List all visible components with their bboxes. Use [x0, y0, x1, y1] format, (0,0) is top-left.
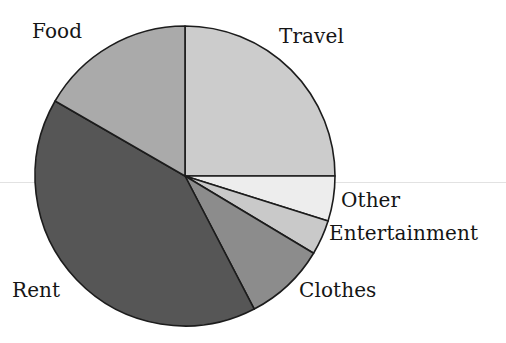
pie-label-travel: Travel [279, 26, 344, 46]
pie-slice-travel [185, 26, 335, 176]
pie-slices-group [35, 26, 335, 326]
pie-chart [0, 0, 506, 343]
pie-label-rent: Rent [12, 280, 60, 300]
pie-label-food: Food [32, 21, 82, 41]
pie-label-clothes: Clothes [299, 280, 376, 300]
pie-label-entertainment: Entertainment [329, 223, 478, 243]
pie-chart-page: Food Travel Other Entertainment Clothes … [0, 0, 506, 343]
pie-label-other: Other [341, 190, 400, 210]
